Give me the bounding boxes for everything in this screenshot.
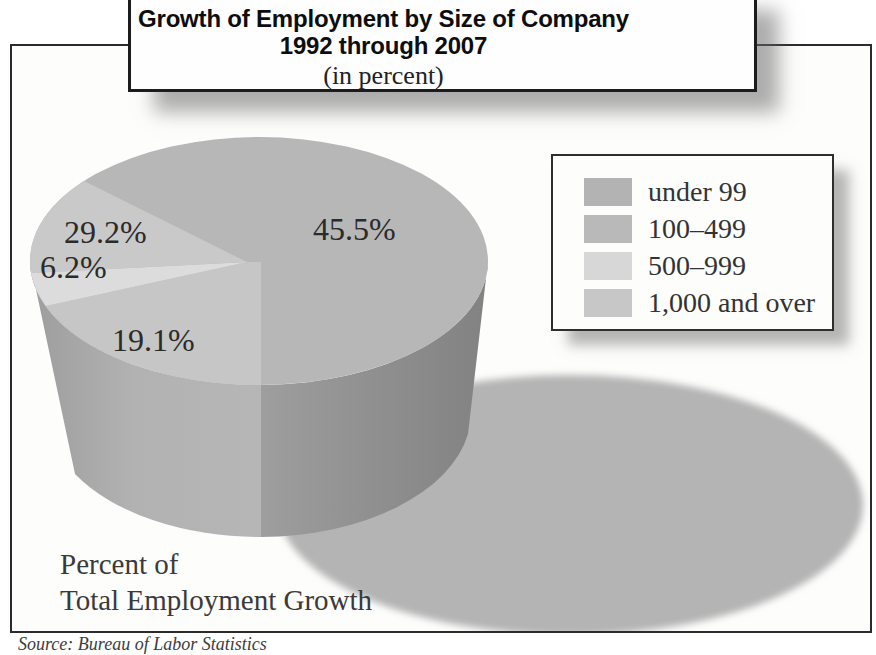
slice-label-100-499: 29.2% (64, 214, 147, 250)
legend-item-500-999: 500–999 (584, 252, 832, 280)
caption-line-2: Total Employment Growth (60, 584, 373, 616)
legend-label-1000-and-over: 1,000 and over (648, 289, 815, 317)
chart-title-subtitle: (in percent) (131, 62, 636, 90)
legend-item-1000-and-over: 1,000 and over (584, 289, 832, 317)
legend-box: under 99 100–499 500–999 1,000 and over (551, 154, 834, 331)
legend-item-under-99: under 99 (584, 178, 832, 206)
legend-label-under-99: under 99 (648, 178, 747, 206)
legend-label-100-499: 100–499 (648, 215, 746, 243)
slice-label-under-99: 45.5% (313, 211, 396, 247)
title-box: Growth of Employment by Size of Company … (128, 0, 757, 92)
chart-title-line-1: Growth of Employment by Size of Company (131, 5, 636, 32)
slice-label-500-999: 6.2% (40, 249, 107, 285)
legend-swatch-1000-and-over (584, 289, 632, 317)
legend-swatch-500-999 (584, 252, 632, 280)
legend-item-100-499: 100–499 (584, 215, 832, 243)
pie-chart-canvas: 45.5% 29.2% 6.2% 19.1% Percent of Total … (12, 46, 870, 631)
legend-label-500-999: 500–999 (648, 252, 746, 280)
slice-label-1000-and-over: 19.1% (112, 322, 195, 358)
source-note: Source: Bureau of Labor Statistics (18, 634, 267, 655)
chart-title-line-2: 1992 through 2007 (131, 32, 636, 59)
legend-swatch-under-99 (584, 178, 632, 206)
legend-swatch-100-499 (584, 215, 632, 243)
caption-line-1: Percent of (60, 548, 179, 580)
